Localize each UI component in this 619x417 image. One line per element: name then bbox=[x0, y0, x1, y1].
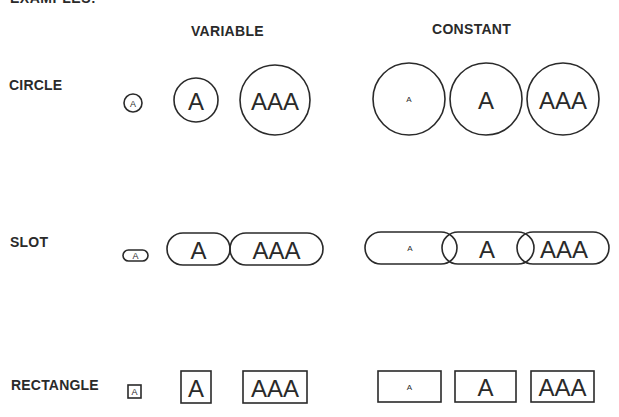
circle-constant-2-text: A bbox=[478, 87, 494, 114]
slot-variable-small-text: A bbox=[132, 251, 138, 261]
slot-variable-medium-text: A bbox=[190, 237, 206, 264]
slot-constant-2-text: A bbox=[479, 236, 495, 263]
rect-variable-small-text: A bbox=[131, 387, 137, 397]
slot-constant-1-text: A bbox=[407, 244, 413, 253]
circle-variable-small-text: A bbox=[130, 99, 136, 109]
rect-constant-3-text: AAA bbox=[538, 374, 586, 401]
slot-constant-3-text: AAA bbox=[540, 236, 588, 263]
circle-constant-1-text: A bbox=[406, 95, 412, 104]
rect-constant-2-text: A bbox=[477, 374, 493, 401]
rect-constant-1-text: A bbox=[407, 383, 413, 392]
shapes-diagram: A A AAA A A AAA A A AAA A A AAA A A AAA … bbox=[0, 0, 619, 417]
rect-variable-large-text: AAA bbox=[251, 375, 299, 402]
circle-variable-large-text: AAA bbox=[251, 88, 299, 115]
rect-variable-medium-text: A bbox=[188, 375, 204, 402]
circle-constant-3-text: AAA bbox=[539, 87, 587, 114]
circle-variable-medium-text: A bbox=[188, 88, 204, 115]
slot-variable-large-text: AAA bbox=[252, 237, 300, 264]
